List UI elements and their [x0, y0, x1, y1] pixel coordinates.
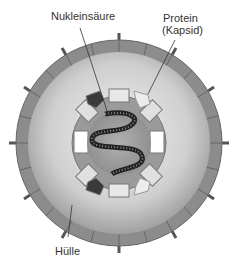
label-nucleic-acid: Nukleinsäure — [51, 10, 115, 22]
label-capsid: (Kapsid) — [162, 24, 203, 36]
label-protein: Protein — [163, 12, 198, 24]
virus-diagram — [0, 0, 237, 265]
label-envelope: Hülle — [55, 245, 80, 257]
